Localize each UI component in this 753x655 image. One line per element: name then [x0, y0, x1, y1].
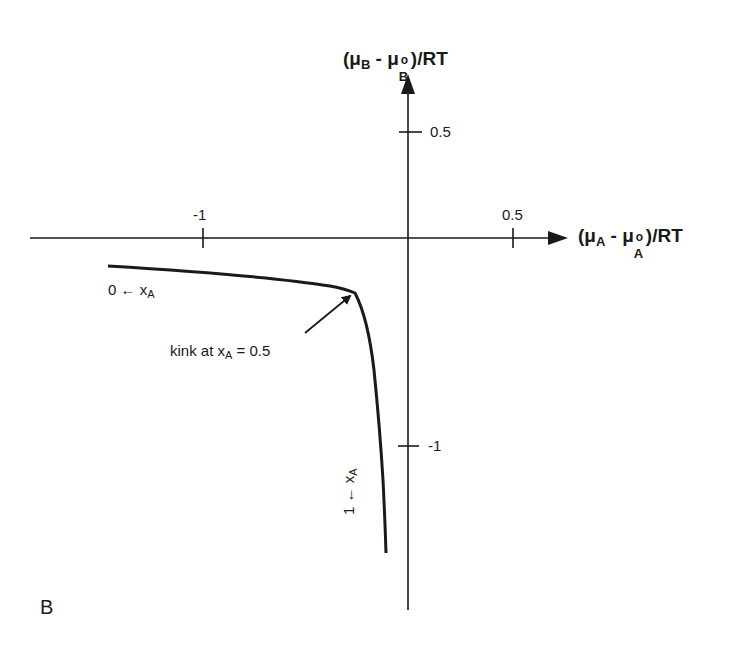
x-axis-title: (μA - μoA)/RT: [578, 225, 683, 249]
x-title-pre: (μ: [578, 225, 596, 246]
kink-text-post: = 0.5: [232, 342, 270, 359]
x-title-post: )/RT: [646, 225, 683, 246]
y-tick-label-05: 0.5: [430, 123, 451, 140]
y-title-mid: - μ: [370, 48, 399, 69]
panel-label: B: [40, 596, 53, 619]
x-title-sub1: A: [596, 234, 605, 249]
x-title-mid: - μ: [605, 225, 634, 246]
y-title-pre: (μ: [343, 48, 361, 69]
y-title-post: )/RT: [411, 48, 448, 69]
chart-canvas: [0, 0, 753, 655]
y-title-sub1: B: [361, 57, 370, 72]
x-axis-arrowhead: [548, 231, 568, 245]
kink-annotation: kink at xA = 0.5: [170, 342, 270, 361]
x-tick-label-05: 0.5: [502, 206, 523, 223]
degree-symbol: o: [636, 230, 643, 244]
x-tick-label-neg1: -1: [193, 206, 206, 223]
y-tick-label-neg1: -1: [428, 437, 441, 454]
kink-text-pre: kink at x: [170, 342, 225, 359]
x0-annotation: 0 ← xA: [108, 281, 155, 300]
x0-annotation-sub: A: [147, 288, 154, 300]
x0-annotation-text: 0 ← x: [108, 281, 147, 298]
x1-annotation: 1 ← xA: [340, 468, 359, 515]
y-title-sub2: B: [399, 69, 408, 84]
kink-arrow: [305, 296, 350, 333]
x1-annotation-text: 1 ← x: [340, 476, 357, 515]
x-title-sub2: A: [634, 246, 643, 261]
x1-annotation-sub: A: [347, 468, 359, 475]
degree-symbol: o: [401, 53, 408, 67]
y-axis-title: (μB - μoB)/RT: [343, 48, 448, 72]
